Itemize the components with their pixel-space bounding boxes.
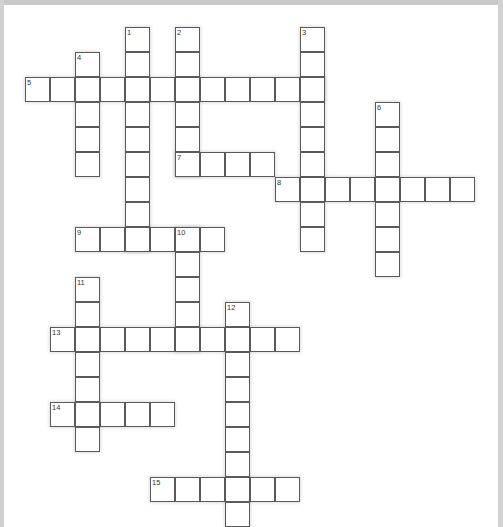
- crossword-cell[interactable]: [150, 402, 175, 427]
- crossword-puzzle-canvas: 123456789101112131415: [0, 0, 503, 527]
- crossword-cell[interactable]: [300, 202, 325, 227]
- crossword-cell[interactable]: [375, 252, 400, 277]
- crossword-cell[interactable]: [75, 302, 100, 327]
- crossword-cell[interactable]: [125, 402, 150, 427]
- crossword-cell[interactable]: [175, 27, 200, 52]
- crossword-cell[interactable]: [300, 52, 325, 77]
- crossword-cell[interactable]: [175, 102, 200, 127]
- crossword-cell[interactable]: [200, 327, 225, 352]
- crossword-cell[interactable]: [75, 352, 100, 377]
- crossword-cell[interactable]: [125, 177, 150, 202]
- crossword-cell[interactable]: [275, 327, 300, 352]
- crossword-cell[interactable]: [225, 377, 250, 402]
- crossword-cell[interactable]: [225, 327, 250, 352]
- crossword-cell[interactable]: [75, 327, 100, 352]
- crossword-cell[interactable]: [225, 352, 250, 377]
- crossword-cell[interactable]: [125, 202, 150, 227]
- crossword-cell[interactable]: [75, 52, 100, 77]
- crossword-cell[interactable]: [175, 327, 200, 352]
- crossword-cell[interactable]: [100, 227, 125, 252]
- crossword-cell[interactable]: [400, 177, 425, 202]
- crossword-cell[interactable]: [250, 77, 275, 102]
- crossword-cell[interactable]: [75, 102, 100, 127]
- crossword-cell[interactable]: [225, 77, 250, 102]
- crossword-cell[interactable]: [150, 77, 175, 102]
- crossword-cell[interactable]: [175, 302, 200, 327]
- crossword-cell[interactable]: [375, 227, 400, 252]
- crossword-cell[interactable]: [125, 52, 150, 77]
- crossword-cell[interactable]: [375, 127, 400, 152]
- crossword-cell[interactable]: [275, 477, 300, 502]
- crossword-cell[interactable]: [125, 152, 150, 177]
- crossword-cell[interactable]: [75, 227, 100, 252]
- crossword-cell[interactable]: [250, 152, 275, 177]
- crossword-cell[interactable]: [300, 77, 325, 102]
- crossword-cell[interactable]: [150, 327, 175, 352]
- crossword-cell[interactable]: [150, 227, 175, 252]
- crossword-cell[interactable]: [175, 277, 200, 302]
- crossword-cell[interactable]: [200, 227, 225, 252]
- window-right-border: [498, 0, 503, 527]
- crossword-cell[interactable]: [225, 452, 250, 477]
- crossword-cell[interactable]: [250, 327, 275, 352]
- crossword-cell[interactable]: [75, 377, 100, 402]
- crossword-cell[interactable]: [175, 252, 200, 277]
- window-left-border: [0, 0, 4, 527]
- crossword-cell[interactable]: [75, 427, 100, 452]
- crossword-cell[interactable]: [200, 152, 225, 177]
- crossword-cell[interactable]: [300, 102, 325, 127]
- crossword-cell[interactable]: [175, 152, 200, 177]
- crossword-cell[interactable]: [150, 477, 175, 502]
- crossword-cell[interactable]: [375, 102, 400, 127]
- crossword-cell[interactable]: [175, 227, 200, 252]
- crossword-cell[interactable]: [75, 152, 100, 177]
- crossword-cell[interactable]: [375, 152, 400, 177]
- crossword-cell[interactable]: [125, 227, 150, 252]
- crossword-cell[interactable]: [100, 77, 125, 102]
- crossword-cell[interactable]: [225, 302, 250, 327]
- crossword-cell[interactable]: [75, 127, 100, 152]
- crossword-cell[interactable]: [50, 77, 75, 102]
- crossword-cell[interactable]: [125, 102, 150, 127]
- crossword-cell[interactable]: [50, 402, 75, 427]
- crossword-cell[interactable]: [75, 77, 100, 102]
- crossword-cell[interactable]: [175, 477, 200, 502]
- crossword-cell[interactable]: [325, 177, 350, 202]
- crossword-cell[interactable]: [175, 77, 200, 102]
- crossword-cell[interactable]: [125, 27, 150, 52]
- crossword-cell[interactable]: [450, 177, 475, 202]
- crossword-cell[interactable]: [225, 152, 250, 177]
- crossword-cell[interactable]: [200, 477, 225, 502]
- crossword-cell[interactable]: [200, 77, 225, 102]
- crossword-cell[interactable]: [225, 502, 250, 527]
- crossword-cell[interactable]: [275, 177, 300, 202]
- crossword-cell[interactable]: [175, 52, 200, 77]
- crossword-cell[interactable]: [75, 402, 100, 427]
- crossword-cell[interactable]: [100, 402, 125, 427]
- crossword-cell[interactable]: [300, 152, 325, 177]
- crossword-cell[interactable]: [300, 27, 325, 52]
- crossword-cell[interactable]: [225, 427, 250, 452]
- crossword-cell[interactable]: [50, 327, 75, 352]
- crossword-cell[interactable]: [250, 477, 275, 502]
- crossword-cell[interactable]: [125, 77, 150, 102]
- crossword-cell[interactable]: [225, 402, 250, 427]
- crossword-cell[interactable]: [125, 127, 150, 152]
- crossword-cell[interactable]: [300, 177, 325, 202]
- window-top-border: [0, 0, 503, 5]
- crossword-cell[interactable]: [375, 202, 400, 227]
- crossword-cell[interactable]: [300, 227, 325, 252]
- crossword-cell[interactable]: [175, 127, 200, 152]
- crossword-cell[interactable]: [350, 177, 375, 202]
- crossword-cell[interactable]: [25, 77, 50, 102]
- crossword-cell[interactable]: [425, 177, 450, 202]
- crossword-cell[interactable]: [275, 77, 300, 102]
- crossword-cell[interactable]: [100, 327, 125, 352]
- crossword-cell[interactable]: [300, 127, 325, 152]
- crossword-cell[interactable]: [75, 277, 100, 302]
- crossword-cell[interactable]: [225, 477, 250, 502]
- crossword-cell[interactable]: [375, 177, 400, 202]
- crossword-cell[interactable]: [125, 327, 150, 352]
